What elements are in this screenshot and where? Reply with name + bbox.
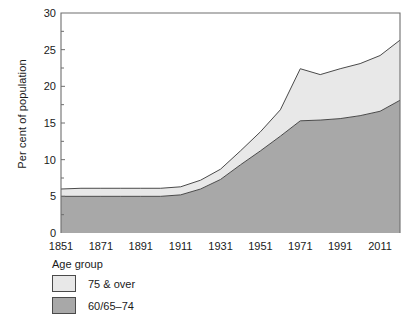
legend-title: Age group bbox=[52, 258, 252, 270]
area-chart: Per cent of population 051015202530 1851… bbox=[0, 0, 418, 335]
legend-label-75-and-over: 75 & over bbox=[88, 278, 135, 290]
legend-swatch-75-and-over bbox=[52, 275, 76, 292]
legend-label-60-65-74: 60/65–74 bbox=[88, 300, 134, 312]
chart-legend: Age group 75 & over 60/65–74 bbox=[52, 258, 252, 319]
legend-item-75-and-over: 75 & over bbox=[52, 275, 252, 292]
series-areas bbox=[61, 40, 400, 233]
axis-tick-marks bbox=[61, 31, 65, 214]
legend-item-60-65-74: 60/65–74 bbox=[52, 297, 252, 314]
legend-swatch-60-65-74 bbox=[52, 297, 76, 314]
